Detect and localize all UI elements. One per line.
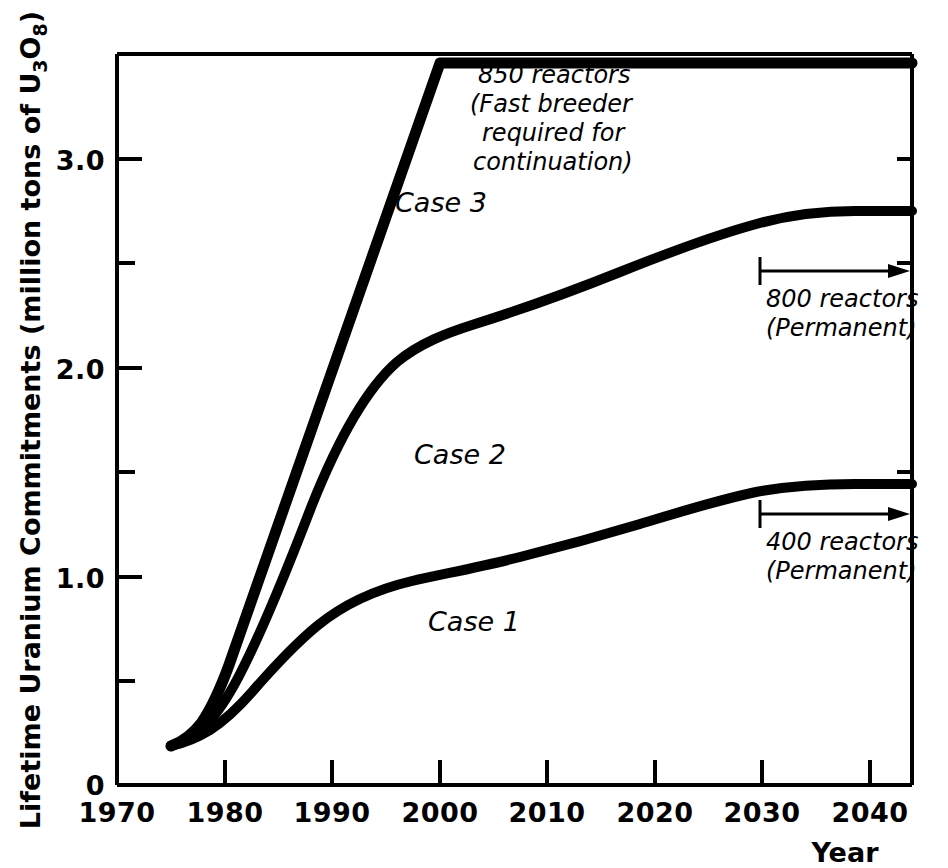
x-tick-label-1980: 1980 <box>186 797 263 828</box>
x-tick-label-2000: 2000 <box>401 797 478 828</box>
annotation-case3-line-2: required for <box>482 119 626 147</box>
y-axis-title-main: Lifetime Uranium Commitments (million to… <box>15 73 46 830</box>
right-axis-ticks <box>897 159 912 785</box>
annotation-case1-arrow-head <box>888 507 910 521</box>
annotation-case1-note: 400 reactors (Permanent) <box>760 500 918 585</box>
y-axis-title-sub3: 3 <box>29 59 51 72</box>
x-tick-label-1970: 1970 <box>78 797 155 828</box>
x-tick-label-1990: 1990 <box>293 797 370 828</box>
x-tick-label-2010: 2010 <box>508 797 585 828</box>
annotation-case1-line-1: (Permanent) <box>766 557 917 585</box>
series-label-case-1: Case 1 <box>428 606 520 637</box>
svg-text:Lifetime Uranium Commitments: Lifetime Uranium Commitments (million to… <box>15 11 51 829</box>
y-tick-label-3: 3.0 <box>56 145 105 176</box>
x-tick-label-2040: 2040 <box>831 797 908 828</box>
uranium-commitment-chart: 0 1.0 2.0 3.0 1970 1980 1990 2000 2010 2… <box>0 0 948 868</box>
y-axis-title-O: O <box>15 36 46 59</box>
annotation-case2-arrow-head <box>888 264 910 278</box>
annotation-case3-line-1: (Fast breeder <box>470 90 634 118</box>
annotation-case2-line-1: (Permanent) <box>766 314 917 342</box>
y-tick-label-1: 1.0 <box>56 563 105 594</box>
y-axis-ticks <box>117 159 142 785</box>
x-tick-label-2020: 2020 <box>616 797 693 828</box>
annotation-case2-line-0: 800 reactors <box>766 285 918 313</box>
y-axis-title-paren: ) <box>15 11 46 23</box>
annotation-case2-note: 800 reactors (Permanent) <box>760 257 918 342</box>
y-axis-title: Lifetime Uranium Commitments (million to… <box>15 11 51 829</box>
annotation-case3-line-3: continuation) <box>473 148 633 176</box>
series-label-case-2: Case 2 <box>414 439 506 470</box>
annotation-case3-line-0: 850 reactors <box>478 61 630 89</box>
figure-container: 0 1.0 2.0 3.0 1970 1980 1990 2000 2010 2… <box>0 0 948 868</box>
y-tick-label-2: 2.0 <box>56 354 105 385</box>
y-axis-title-sub8: 8 <box>29 23 51 36</box>
x-axis-title: Year <box>811 837 880 868</box>
annotation-case3-note: 850 reactors (Fast breeder required for … <box>470 61 634 176</box>
annotation-case1-line-0: 400 reactors <box>766 528 918 556</box>
x-axis-ticks <box>225 760 870 785</box>
x-tick-label-2030: 2030 <box>723 797 800 828</box>
series-label-case-3: Case 3 <box>395 187 487 218</box>
